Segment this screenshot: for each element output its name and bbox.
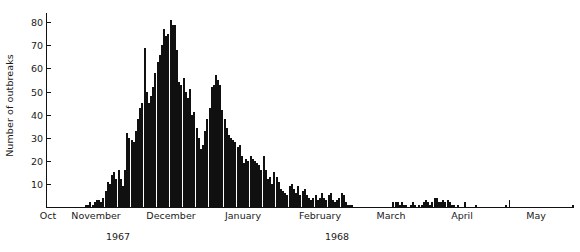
y-axis-tick-label-wrap: 30	[20, 138, 43, 139]
y-axis-tick-label: 60	[20, 63, 43, 74]
y-axis-tick-label-wrap: 40	[20, 115, 43, 116]
x-axis-month-label-may: May	[526, 210, 546, 221]
y-axis-tick-label-wrap: 10	[20, 184, 43, 185]
y-axis-tick-label-wrap: 50	[20, 92, 43, 93]
y-axis-tick-label: 40	[20, 109, 43, 120]
x-axis-month-label-november: November	[71, 210, 120, 221]
x-axis-line	[46, 207, 574, 208]
y-axis-tick-label-wrap: 20	[20, 161, 43, 162]
x-axis-tick-mark	[341, 200, 342, 207]
y-axis-tick-label: 10	[20, 178, 43, 189]
x-axis-month-label-december: December	[146, 210, 195, 221]
x-axis-year-label-1967: 1967	[106, 231, 130, 242]
x-axis-tick-mark	[509, 200, 510, 207]
y-axis-tick-label: 80	[20, 17, 43, 28]
plot-area	[46, 13, 574, 207]
y-axis-tick-label-wrap: 70	[20, 45, 43, 46]
x-axis-tick-mark	[437, 200, 438, 207]
x-axis-month-label-february: February	[299, 210, 341, 221]
y-axis-tick-label: 50	[20, 86, 43, 97]
y-axis-tick-label: 30	[20, 132, 43, 143]
epidemic-curve-chart: Number of outbreaks 1020304050607080 Oct…	[0, 0, 580, 252]
x-axis-month-label-oct: Oct	[40, 210, 56, 221]
x-axis-year-label-1968: 1968	[325, 231, 349, 242]
y-axis-title: Number of outbreaks	[0, 0, 18, 210]
y-axis-tick-label: 70	[20, 40, 43, 51]
x-axis-month-label-april: April	[451, 210, 473, 221]
y-axis-tick-label: 20	[20, 155, 43, 166]
x-axis-month-label-january: January	[225, 210, 261, 221]
y-axis-title-text: Number of outbreaks	[4, 54, 15, 157]
x-axis-month-label-march: March	[377, 210, 406, 221]
y-axis-tick-label-wrap: 80	[20, 22, 43, 23]
y-axis-tick-label-wrap: 60	[20, 68, 43, 69]
